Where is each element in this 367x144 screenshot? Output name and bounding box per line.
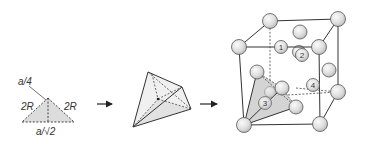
site-2: 2 <box>296 49 309 62</box>
label-2r-left: 2R <box>20 101 34 112</box>
atom-sphere <box>322 63 336 77</box>
atom-sphere <box>331 12 346 27</box>
svg-text:4: 4 <box>311 81 316 90</box>
atom-sphere <box>289 100 303 114</box>
diagram-stage: a/4 2R 2R a/√2 <box>0 0 367 144</box>
label-a-over-root2: a/√2 <box>36 126 56 137</box>
label-2r-right: 2R <box>63 101 77 112</box>
triangle-panel: a/4 2R 2R a/√2 <box>18 76 77 137</box>
atom-sphere <box>313 117 328 132</box>
site-4: 4 <box>307 79 320 92</box>
atom-sphere <box>232 40 247 55</box>
atom-sphere <box>265 87 276 98</box>
fcc-unit-cell: 1 2 4 3 <box>232 12 346 133</box>
site-1: 1 <box>275 41 288 54</box>
label-a-over-4: a/4 <box>18 76 32 87</box>
label-leader-line <box>29 86 46 100</box>
svg-text:1: 1 <box>279 43 284 52</box>
svg-text:2: 2 <box>300 51 305 60</box>
atom-sphere <box>263 14 278 29</box>
atom-sphere <box>250 65 264 79</box>
atom-sphere <box>331 85 346 100</box>
atom-sphere <box>293 25 307 39</box>
site-3: 3 <box>259 97 272 110</box>
svg-text:3: 3 <box>263 99 268 108</box>
atom-sphere <box>312 40 327 55</box>
atom-sphere <box>275 81 289 95</box>
tetrahedron-panel <box>133 72 191 127</box>
atom-sphere <box>237 118 252 133</box>
